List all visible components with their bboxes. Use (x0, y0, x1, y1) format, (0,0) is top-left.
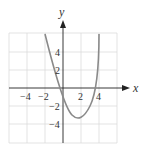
x-tick-label: −4 (20, 91, 31, 102)
x-tick-label: 2 (78, 91, 83, 102)
x-tick-label: −2 (38, 91, 49, 102)
y-tick-label: −2 (49, 101, 60, 112)
y-tick-label: 2 (55, 65, 60, 76)
x-tick-label: 4 (96, 91, 101, 102)
y-tick-label: 4 (55, 47, 60, 58)
graph: y x −4 −2 2 4 4 2 −2 −4 (0, 0, 144, 156)
y-axis-arrow-icon (60, 20, 66, 28)
y-tick-label: −4 (49, 119, 60, 130)
y-axis-label: y (58, 5, 65, 19)
x-axis-label: x (132, 81, 139, 95)
axes (9, 26, 124, 143)
x-axis-arrow-icon (122, 85, 130, 91)
